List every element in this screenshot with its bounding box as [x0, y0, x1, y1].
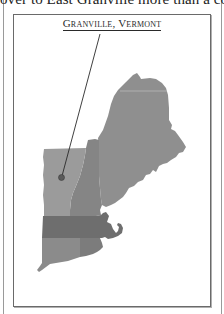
- location-marker: [59, 175, 65, 181]
- new-england-map: [0, 0, 224, 314]
- state-maine: [98, 73, 186, 207]
- state-rhode-island: [80, 238, 103, 257]
- state-massachusetts: [42, 212, 123, 239]
- state-connecticut: [37, 238, 80, 272]
